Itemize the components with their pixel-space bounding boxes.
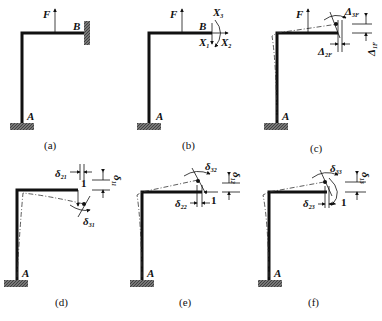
unit-load-label: 1 [341,196,347,208]
delta-23-label: δ23 [303,197,315,210]
X3-label: X3 [212,6,223,19]
delta-3F-label: Δ3F [344,5,359,18]
delta-2F-label: Δ2F [317,45,332,58]
deflected-shape [137,180,198,277]
fixed-support-A [137,123,161,130]
X2-label: X2 [220,36,231,49]
delta-31-label: δ31 [83,215,95,228]
caption-d: (d) [55,296,68,309]
delta-11-label: δ11 [111,175,124,186]
fixed-support-A [4,280,28,287]
point-A-label: A [21,267,29,279]
panel-a: F B A (a) [10,8,90,152]
point-A-label: A [146,267,154,279]
delta-13-label: δ13 [359,172,372,184]
force-label: F [42,8,51,20]
rotation-arrow-icon [70,205,90,210]
caption-f: (f) [308,296,319,309]
rotation-arrow-icon [184,171,210,176]
point-A-label: A [26,110,34,122]
point-B-label: B [72,20,80,32]
delta-21-label: δ21 [55,167,67,180]
force-label: F [295,8,304,20]
fixed-support-A [264,123,288,130]
fixed-support-B [84,21,90,45]
point-A-label: A [281,110,289,122]
X1-label: X1 [198,36,209,49]
caption-b: (b) [182,139,195,152]
panel-f: 1 δ33 δ23 δ13 A (f) [258,162,372,309]
delta-22-label: δ22 [175,197,187,210]
point-B-label: B [198,20,206,32]
point-A-label: A [273,267,281,279]
deflected-shape [17,193,84,277]
delta-33-label: δ33 [330,162,342,175]
X3-moment-icon [215,20,221,47]
force-label: F [169,8,178,20]
delta-12-label: δ12 [230,172,243,184]
caption-a: (a) [44,139,57,152]
unit-load-label: 1 [211,194,217,206]
rotation-arrow-icon [324,15,346,20]
panel-b: F B X3 X1 X2 A (b) [137,6,231,152]
caption-c: (c) [310,142,323,155]
fixed-support-A [258,280,282,287]
panel-e: 1 δ32 δ22 δ12 A (e) [130,160,243,309]
panel-c: F Δ3F Δ2F Δ1F A (c) [264,5,378,155]
rotated-tangent [78,196,90,217]
fixed-support-A [130,280,154,287]
deflected-shape [263,182,324,277]
panel-d: 1 δ21 δ11 δ31 A (d) [4,164,124,309]
fixed-support-A [10,123,34,130]
caption-e: (e) [179,296,192,309]
delta-1F-label: Δ1F [365,42,378,57]
force-method-diagram: F B A (a) F B X3 X1 X2 A (b) F [0,0,382,321]
point-A-label: A [155,110,163,122]
delta-32-label: δ32 [205,160,217,173]
deflected-shape [272,24,338,120]
